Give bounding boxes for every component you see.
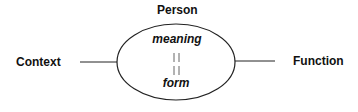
function-label: Function: [293, 54, 344, 68]
meaning-label: meaning: [152, 32, 201, 46]
person-label: Person: [157, 3, 198, 17]
double-bar-symbol: [174, 53, 179, 75]
context-label: Context: [16, 55, 61, 69]
form-label: form: [163, 76, 190, 90]
